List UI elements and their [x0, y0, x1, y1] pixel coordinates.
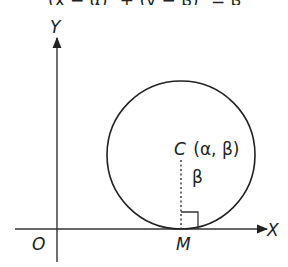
radius-label: β: [192, 167, 203, 187]
right-angle-marker: [181, 212, 198, 229]
x-axis-label: X: [266, 220, 279, 240]
circle-tangent-diagram: (x − α)² + (y − β)² = β² Y X O C (α, β) …: [0, 0, 288, 267]
cropped-header: (x − α)² + (y − β)² = β²: [48, 0, 248, 10]
center-label: C (α, β): [174, 139, 239, 159]
center-coordinates: (α, β): [188, 139, 240, 159]
cropped-equation: (x − α)² + (y − β)² = β²: [48, 0, 248, 10]
touch-point-label: M: [176, 234, 191, 254]
origin-label: O: [32, 234, 45, 254]
y-axis-label: Y: [50, 17, 62, 37]
